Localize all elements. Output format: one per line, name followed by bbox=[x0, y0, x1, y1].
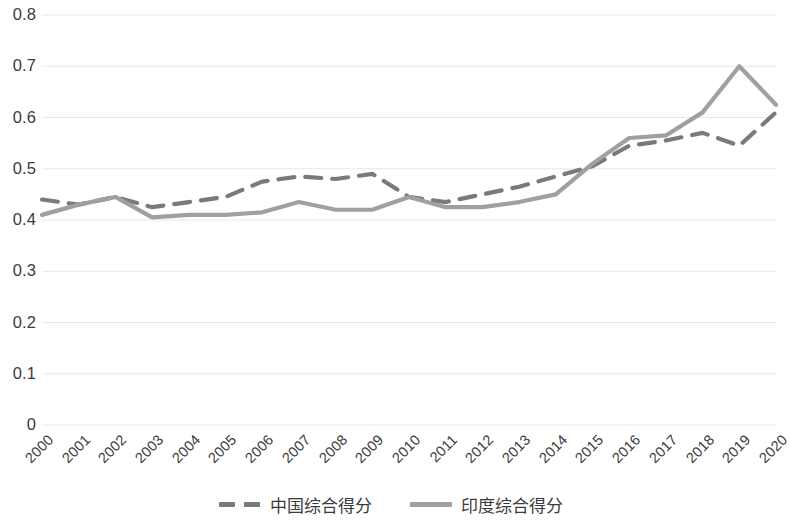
y-axis-tick-label: 0.6 bbox=[13, 109, 36, 126]
y-axis-tick: 0.4 bbox=[0, 211, 36, 229]
legend-label-china: 中国综合得分 bbox=[270, 492, 372, 517]
legend-label-india: 印度综合得分 bbox=[461, 492, 563, 517]
y-axis-tick: 0.1 bbox=[0, 365, 36, 383]
y-axis-tick-label: 0.7 bbox=[13, 57, 36, 74]
legend-item-china[interactable]: 中国综合得分 bbox=[219, 492, 372, 517]
y-axis-tick-label: 0.4 bbox=[13, 211, 36, 228]
y-axis-tick-label: 0.5 bbox=[13, 160, 36, 177]
y-axis-tick: 0 bbox=[0, 416, 36, 434]
legend-swatch-dashed-icon bbox=[219, 502, 261, 507]
gridlines bbox=[42, 15, 776, 425]
y-axis-tick: 0.2 bbox=[0, 314, 36, 332]
legend-item-india[interactable]: 印度综合得分 bbox=[410, 492, 563, 517]
y-axis-tick: 0.5 bbox=[0, 160, 36, 178]
series-line-china bbox=[42, 112, 776, 207]
y-axis-tick: 0.3 bbox=[0, 262, 36, 280]
y-axis-tick-label: 0.3 bbox=[13, 262, 36, 279]
series-lines bbox=[42, 66, 776, 217]
y-axis-tick-label: 0 bbox=[27, 416, 36, 433]
y-axis-tick: 0.8 bbox=[0, 6, 36, 24]
chart-legend: 中国综合得分 印度综合得分 bbox=[0, 486, 781, 522]
y-axis-tick: 0.6 bbox=[0, 109, 36, 127]
y-axis-tick-label: 0.1 bbox=[13, 365, 36, 382]
legend-swatch-solid-icon bbox=[410, 502, 452, 507]
y-axis-tick-label: 0.8 bbox=[13, 6, 36, 23]
y-axis-tick-label: 0.2 bbox=[13, 314, 36, 331]
y-axis-tick: 0.7 bbox=[0, 57, 36, 75]
